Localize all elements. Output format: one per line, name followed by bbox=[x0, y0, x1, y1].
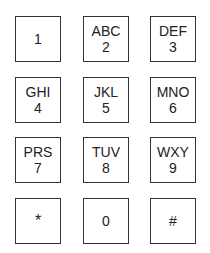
key-8[interactable]: TUV 8 bbox=[83, 137, 129, 183]
key-star[interactable]: * bbox=[15, 198, 61, 244]
key-hash[interactable]: # bbox=[150, 198, 196, 244]
key-letters: PRS bbox=[24, 144, 53, 160]
key-digit: 2 bbox=[102, 39, 110, 56]
key-letters: JKL bbox=[94, 84, 118, 100]
key-digit: 9 bbox=[169, 160, 177, 177]
key-digit: 4 bbox=[34, 100, 42, 117]
key-digit: * bbox=[35, 212, 41, 230]
key-4[interactable]: GHI 4 bbox=[15, 77, 61, 123]
key-digit: 8 bbox=[102, 160, 110, 177]
key-digit: # bbox=[169, 213, 177, 230]
telephone-keypad: 1 ABC 2 DEF 3 GHI 4 JKL 5 MNO 6 PRS 7 TU… bbox=[0, 0, 210, 253]
key-digit: 6 bbox=[169, 100, 177, 117]
key-digit: 0 bbox=[102, 213, 110, 230]
key-7[interactable]: PRS 7 bbox=[15, 137, 61, 183]
key-9[interactable]: WXY 9 bbox=[150, 137, 196, 183]
key-letters: GHI bbox=[26, 84, 51, 100]
key-letters: ABC bbox=[92, 23, 121, 39]
key-6[interactable]: MNO 6 bbox=[150, 77, 196, 123]
key-digit: 7 bbox=[34, 160, 42, 177]
key-digit: 1 bbox=[34, 31, 42, 48]
key-letters: WXY bbox=[157, 144, 189, 160]
key-digit: 3 bbox=[169, 39, 177, 56]
key-digit: 5 bbox=[102, 100, 110, 117]
key-0[interactable]: 0 bbox=[83, 198, 129, 244]
key-letters: DEF bbox=[159, 23, 187, 39]
key-letters: MNO bbox=[157, 84, 190, 100]
key-5[interactable]: JKL 5 bbox=[83, 77, 129, 123]
key-1[interactable]: 1 bbox=[15, 16, 61, 62]
key-3[interactable]: DEF 3 bbox=[150, 16, 196, 62]
key-letters: TUV bbox=[92, 144, 120, 160]
key-2[interactable]: ABC 2 bbox=[83, 16, 129, 62]
